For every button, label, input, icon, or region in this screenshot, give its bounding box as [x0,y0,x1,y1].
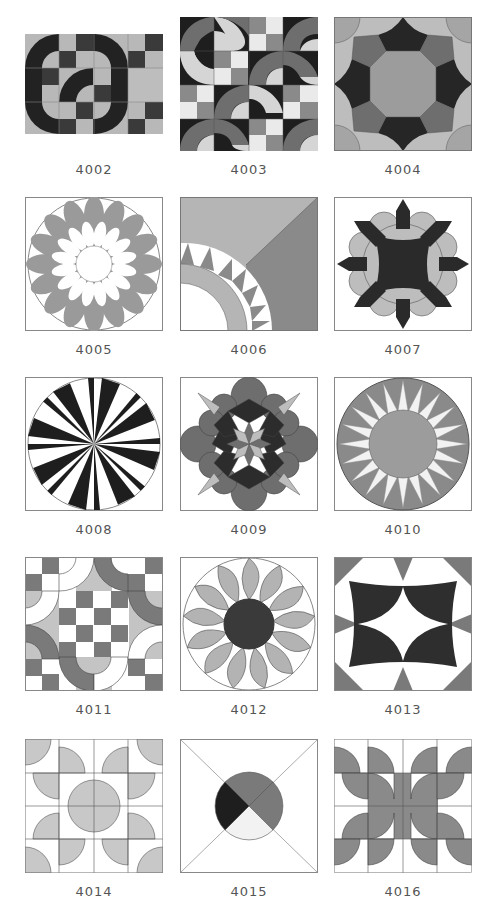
block-label: 4006 [180,342,318,357]
block-4014-image [25,739,163,873]
block-label: 4012 [180,702,318,717]
block-label: 4003 [180,162,318,177]
block-label: 4004 [334,162,472,177]
block-4006-image [180,197,318,331]
block-label: 4015 [180,884,318,899]
block-label: 4010 [334,522,472,537]
block-4007-image [334,197,472,331]
block-4003-image [180,17,318,151]
block-4008-image [25,377,163,511]
block-4005-image [25,197,163,331]
block-4002-image [25,34,163,134]
block-label: 4011 [25,702,163,717]
block-label: 4008 [25,522,163,537]
block-label: 4014 [25,884,163,899]
block-4010-image [334,377,472,511]
block-4016-image [334,739,472,873]
block-4004-image [334,17,472,151]
block-4015-image [180,739,318,873]
block-label: 4009 [180,522,318,537]
block-4011-image [25,557,163,691]
block-4013-image [334,557,472,691]
block-label: 4007 [334,342,472,357]
block-label: 4005 [25,342,163,357]
block-label: 4013 [334,702,472,717]
block-label: 4002 [25,162,163,177]
block-4009-image [180,377,318,511]
block-4012-image [180,557,318,691]
block-label: 4016 [334,884,472,899]
